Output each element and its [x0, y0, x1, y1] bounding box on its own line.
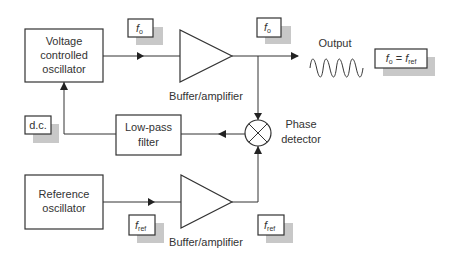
vco-label-line2: controlled [40, 49, 88, 61]
buffer-amplifier-top: Buffer/amplifier [169, 30, 243, 102]
lpf-label-line1: Low-pass [125, 121, 173, 133]
ref-osc-label-line2: oscillator [42, 202, 86, 214]
sine-wave-icon [310, 59, 363, 77]
buffer-top-label: Buffer/amplifier [169, 90, 243, 102]
ref-osc-label-line1: Reference [39, 188, 90, 200]
lock-condition-tag: fo = fref [375, 49, 435, 76]
buffer-bottom-label: Buffer/amplifier [169, 236, 243, 248]
phase-detector-label-line2: detector [281, 133, 321, 145]
arrow-left-icon [218, 130, 226, 138]
phase-detector-label-line1: Phase [285, 118, 316, 130]
f0-tag-output: fo [257, 18, 291, 44]
vco-label-line1: Voltage [46, 35, 83, 47]
dc-tag: d.c. [25, 116, 59, 143]
arrow-right-icon [137, 52, 144, 60]
fref-tag-reference: fref [129, 215, 164, 243]
output-label: Output [318, 37, 351, 49]
low-pass-filter-block: Low-pass filter [116, 115, 181, 155]
f0-tag-vco-output: fo [128, 19, 163, 45]
phase-detector: Phase detector [245, 118, 321, 146]
pll-diagram: Voltage controlled oscillator fo Buffer/… [0, 0, 459, 257]
buffer-amplifier-bottom: Buffer/amplifier [169, 175, 243, 248]
vco-block: Voltage controlled oscillator [25, 29, 103, 82]
ref-to-detector-line [232, 146, 258, 202]
fref-tag-detector-input: fref [258, 215, 293, 243]
reference-oscillator-block: Reference oscillator [25, 175, 103, 229]
arrow-right-icon [148, 198, 155, 206]
lpf-label-line2: filter [138, 136, 159, 148]
svg-text:d.c.: d.c. [29, 119, 47, 131]
arrow-right-icon [291, 52, 299, 60]
arrow-down-icon [254, 113, 262, 120]
arrow-up-icon [60, 82, 68, 90]
filter-to-vco-line [64, 82, 116, 134]
arrow-up-icon [254, 146, 262, 154]
vco-label-line3: oscillator [42, 63, 86, 75]
